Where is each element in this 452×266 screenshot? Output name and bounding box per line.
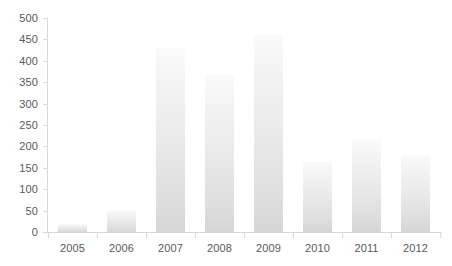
bar-slot (146, 18, 195, 232)
bar[interactable] (58, 224, 87, 232)
bar[interactable] (303, 161, 332, 232)
bar[interactable] (401, 155, 430, 232)
x-tick-label: 2007 (146, 240, 195, 260)
x-tick-label: 2012 (391, 240, 440, 260)
bar-slot (97, 18, 146, 232)
bar-slot (391, 18, 440, 232)
x-tick-mark (48, 233, 49, 238)
y-tick-mark (43, 61, 48, 62)
bar[interactable] (107, 210, 136, 232)
y-tick-mark (43, 39, 48, 40)
x-tick-mark (244, 233, 245, 238)
x-tick-mark (293, 233, 294, 238)
y-tick-label: 350 (19, 76, 38, 88)
y-tick-label: 200 (19, 140, 38, 152)
x-tick-label: 2006 (97, 240, 146, 260)
x-tick-label: 2009 (244, 240, 293, 260)
bar-slot (244, 18, 293, 232)
x-tick-mark (195, 233, 196, 238)
y-tick-label: 250 (19, 119, 38, 131)
y-tick-mark (43, 211, 48, 212)
x-tick-label: 2010 (293, 240, 342, 260)
bar-slot (195, 18, 244, 232)
bar-slot (342, 18, 391, 232)
y-tick-label: 150 (19, 162, 38, 174)
y-tick-mark (43, 146, 48, 147)
bar-chart: 050100150200250300350400450500 200520062… (0, 0, 452, 266)
x-tick-mark (342, 233, 343, 238)
x-tick-label: 2011 (342, 240, 391, 260)
x-tick-mark (440, 233, 441, 238)
y-tick-mark (43, 168, 48, 169)
y-tick-mark (43, 104, 48, 105)
y-tick-label: 0 (32, 226, 38, 238)
x-tick-mark (146, 233, 147, 238)
plot-area (48, 18, 440, 232)
bar[interactable] (254, 35, 283, 232)
y-tick-mark (43, 189, 48, 190)
x-tick-mark (97, 233, 98, 238)
y-tick-label: 500 (19, 12, 38, 24)
bar-slot (48, 18, 97, 232)
bar-slot (293, 18, 342, 232)
x-tick-label: 2005 (48, 240, 97, 260)
y-axis: 050100150200250300350400450500 (0, 0, 44, 266)
y-tick-label: 400 (19, 55, 38, 67)
y-tick-label: 100 (19, 183, 38, 195)
y-tick-mark (43, 18, 48, 19)
x-tick-mark (391, 233, 392, 238)
bar[interactable] (205, 75, 234, 233)
bar[interactable] (156, 48, 185, 232)
bar[interactable] (352, 139, 381, 232)
x-axis: 20052006200720082009201020112012 (48, 240, 440, 260)
y-tick-label: 50 (26, 205, 38, 217)
y-tick-label: 300 (19, 98, 38, 110)
y-tick-mark (43, 125, 48, 126)
x-tick-label: 2008 (195, 240, 244, 260)
y-tick-mark (43, 82, 48, 83)
y-tick-label: 450 (19, 33, 38, 45)
